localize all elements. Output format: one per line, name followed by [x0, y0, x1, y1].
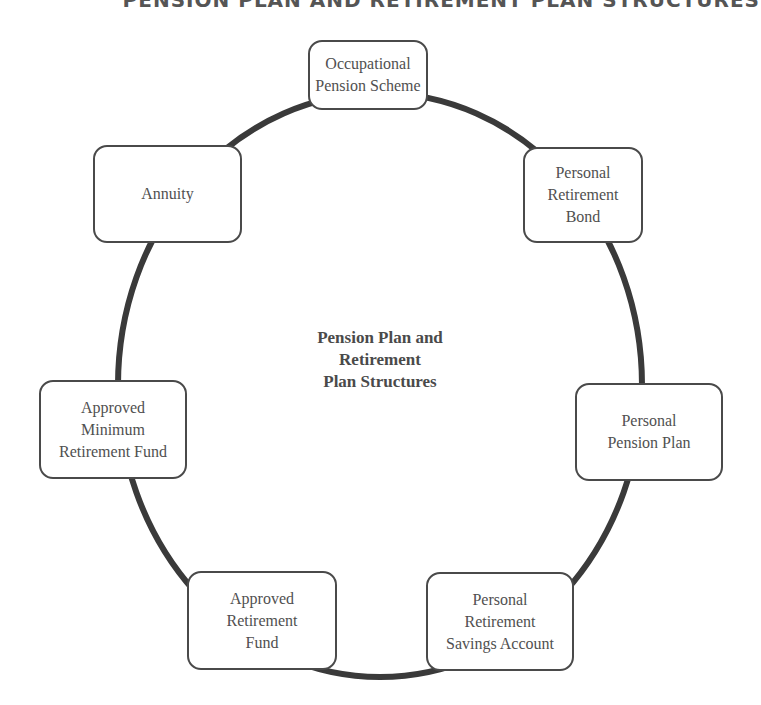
center-title-line: Plan Structures — [270, 371, 490, 393]
node-label: Retirement — [547, 184, 618, 206]
node-personal-retirement-savings-account: PersonalRetirementSavings Account — [426, 572, 574, 671]
node-label: Approved — [226, 588, 297, 610]
node-label: Bond — [547, 206, 618, 228]
node-label: Approved — [59, 397, 167, 419]
node-label: Retirement Fund — [59, 441, 167, 463]
node-label: Personal — [607, 410, 690, 432]
center-title-line: Retirement — [270, 349, 490, 371]
node-label: Personal — [547, 162, 618, 184]
node-label: Personal — [446, 589, 554, 611]
node-label: Occupational — [315, 53, 420, 75]
node-approved-minimum-retirement-fund: ApprovedMinimumRetirement Fund — [39, 380, 187, 479]
node-label: Annuity — [141, 183, 193, 205]
node-label: Minimum — [59, 419, 167, 441]
diagram-canvas: PENSION PLAN AND RETIREMENT PLAN STRUCTU… — [0, 0, 761, 705]
node-label: Fund — [226, 632, 297, 654]
node-personal-pension-plan: PersonalPension Plan — [575, 383, 723, 481]
node-approved-retirement-fund: ApprovedRetirementFund — [187, 571, 337, 670]
node-label: Savings Account — [446, 633, 554, 655]
node-label: Pension Plan — [607, 432, 690, 454]
center-title-line: Pension Plan and — [270, 327, 490, 349]
node-personal-retirement-bond: PersonalRetirementBond — [523, 147, 643, 243]
node-annuity: Annuity — [93, 145, 242, 243]
node-label: Retirement — [446, 611, 554, 633]
node-label: Retirement — [226, 610, 297, 632]
center-title: Pension Plan and Retirement Plan Structu… — [270, 327, 490, 393]
node-occupational-pension-scheme: OccupationalPension Scheme — [308, 40, 428, 110]
node-label: Pension Scheme — [315, 75, 420, 97]
